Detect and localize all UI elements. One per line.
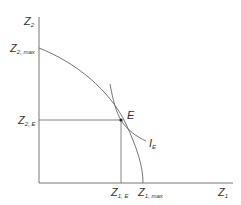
ppf-diagram: Z2 Z2, max Z2, E E IE Z1, E Z1, max Z1 <box>0 0 241 205</box>
z1-max-label: Z1, max <box>137 186 164 199</box>
x-axis-label: Z1 <box>217 186 228 199</box>
equilibrium-point <box>119 118 122 121</box>
z2-e-label: Z2, E <box>17 114 36 127</box>
indifference-curve-label: IE <box>149 137 157 150</box>
z2-max-label: Z2, max <box>9 42 36 55</box>
y-axis-label: Z2 <box>23 15 35 28</box>
point-e-label: E <box>127 109 135 121</box>
z1-e-label: Z1, E <box>110 186 129 199</box>
